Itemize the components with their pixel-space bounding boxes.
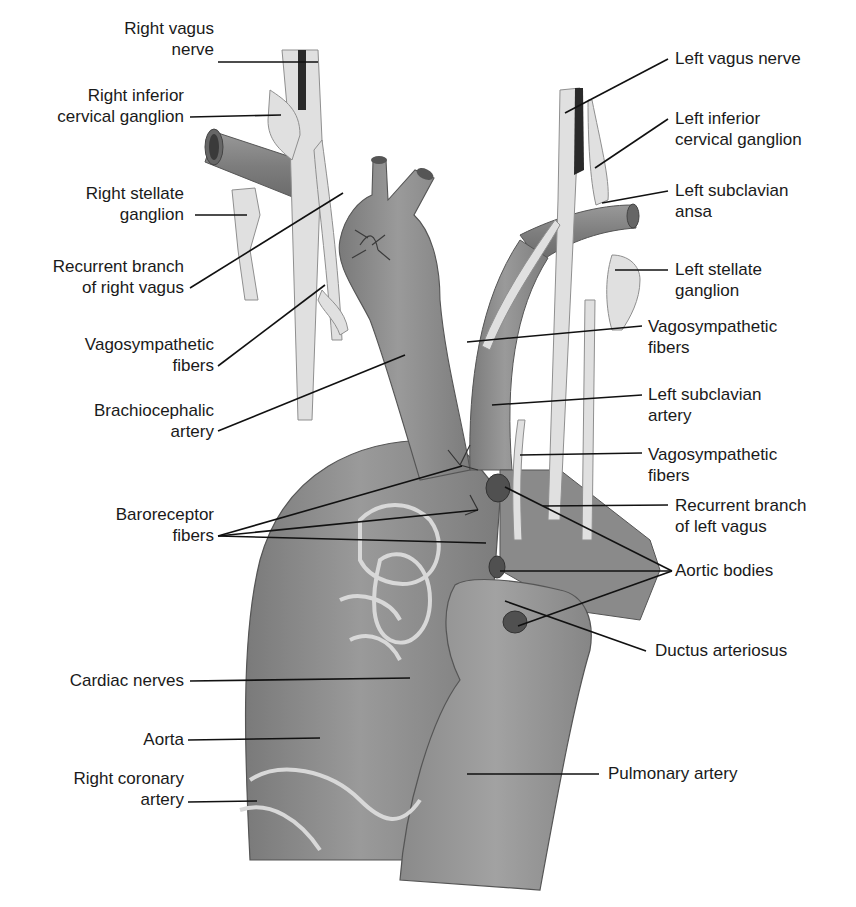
label-aorta: Aorta (143, 729, 184, 750)
label-left-subclavian-ansa: Left subclavian ansa (675, 180, 788, 222)
label-right-inferior-cervical-ganglion: Right inferior cervical ganglion (57, 85, 184, 127)
label-vagosympathetic-fibers-left-upper: Vagosympathetic fibers (648, 316, 777, 358)
label-vagosympathetic-fibers-left-lower: Vagosympathetic fibers (648, 444, 777, 486)
label-recurrent-branch-left-vagus: Recurrent branch of left vagus (675, 495, 806, 537)
left-subclavian-artery-vessel (470, 240, 548, 470)
label-left-stellate-ganglion: Left stellate ganglion (675, 259, 762, 301)
label-brachiocephalic-artery: Brachiocephalic artery (94, 400, 214, 442)
label-left-vagus-nerve: Left vagus nerve (675, 48, 801, 69)
label-pulmonary-artery: Pulmonary artery (608, 763, 737, 784)
label-recurrent-branch-right-vagus: Recurrent branch of right vagus (53, 256, 184, 298)
right-nerve-bundle (232, 50, 348, 420)
label-baroreceptor-fibers: Baroreceptor fibers (116, 504, 214, 546)
label-cardiac-nerves: Cardiac nerves (70, 670, 184, 691)
label-vagosympathetic-fibers-right: Vagosympathetic fibers (85, 334, 214, 376)
aortic-body-2 (489, 556, 505, 578)
label-right-coronary-artery: Right coronary artery (73, 768, 184, 810)
label-right-stellate-ganglion: Right stellate ganglion (86, 183, 184, 225)
label-ductus-arteriosus: Ductus arteriosus (655, 640, 787, 661)
brachiocephalic-artery-vessel (339, 156, 470, 480)
label-left-inferior-cervical-ganglion: Left inferior cervical ganglion (675, 108, 802, 150)
label-right-vagus-nerve: Right vagus nerve (124, 18, 214, 60)
aortic-body-3 (503, 611, 527, 633)
label-aortic-bodies: Aortic bodies (675, 560, 773, 581)
label-left-subclavian-artery: Left subclavian artery (648, 384, 761, 426)
